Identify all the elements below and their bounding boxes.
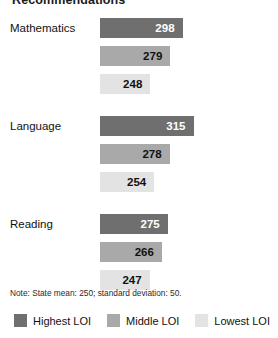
bar-value-label: 266 <box>100 242 154 262</box>
bar-value-label: 254 <box>100 172 146 192</box>
legend-swatch-icon <box>107 314 120 327</box>
bar-row: 278 <box>0 144 278 164</box>
bar-value-label: 315 <box>100 116 186 136</box>
bar-row: 248 <box>0 74 278 94</box>
bar-value-label: 247 <box>100 270 142 290</box>
bar-row: 298 <box>0 18 278 38</box>
legend-item-middle[interactable]: Middle LOI <box>107 314 179 327</box>
bar-row: 279 <box>0 46 278 66</box>
legend-swatch-icon <box>195 314 208 327</box>
bar-chart-plot-area: Mathematics298279248Language315278254Rea… <box>0 18 278 312</box>
legend-label: Highest LOI <box>33 315 91 327</box>
legend-item-lowest[interactable]: Lowest LOI <box>195 314 270 327</box>
bar-row: 254 <box>0 172 278 192</box>
bar-row: 315 <box>0 116 278 136</box>
chart-legend: Highest LOIMiddle LOILowest LOI <box>14 314 272 327</box>
legend-swatch-icon <box>14 314 27 327</box>
bar-row: 266 <box>0 242 278 262</box>
bar-value-label: 278 <box>100 144 162 164</box>
chart-note: Note: State mean: 250; standard deviatio… <box>10 288 182 298</box>
bar-value-label: 298 <box>100 18 175 38</box>
chart-title: Recommendations <box>12 0 125 7</box>
bar-value-label: 279 <box>100 46 162 66</box>
bar-row: 275 <box>0 214 278 234</box>
legend-label: Lowest LOI <box>214 315 270 327</box>
bar-row: 247 <box>0 270 278 290</box>
legend-label: Middle LOI <box>126 315 179 327</box>
bar-value-label: 248 <box>100 74 142 94</box>
legend-item-highest[interactable]: Highest LOI <box>14 314 91 327</box>
bar-value-label: 275 <box>100 214 160 234</box>
